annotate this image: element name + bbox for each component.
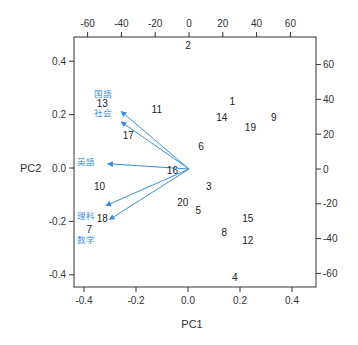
right-tick-label: -60 xyxy=(323,268,338,279)
y-tick-label: 0.2 xyxy=(52,109,66,120)
top-tick-label: 40 xyxy=(251,18,263,29)
right-axis: 6040200-20-40-60 xyxy=(316,59,338,279)
left-axis: 0.40.20.0-0.2-0.4 xyxy=(49,56,74,281)
right-tick-label: -40 xyxy=(323,233,338,244)
top-tick-label: 0 xyxy=(186,18,192,29)
top-tick-label: -60 xyxy=(80,18,95,29)
observation-label: 19 xyxy=(245,122,257,133)
observation-label: 9 xyxy=(271,112,277,123)
x-tick-label: 0.4 xyxy=(285,295,299,306)
x-tick-label: -0.4 xyxy=(75,295,93,306)
top-tick-label: -40 xyxy=(114,18,129,29)
top-tick-label: 60 xyxy=(285,18,297,29)
x-tick-label: -0.2 xyxy=(127,295,145,306)
x-tick-label: 0.2 xyxy=(233,295,247,306)
observation-label: 5 xyxy=(196,205,202,216)
observation-label: 20 xyxy=(177,197,189,208)
observation-label: 12 xyxy=(242,235,254,246)
loading-arrow xyxy=(121,122,189,169)
observation-label: 18 xyxy=(97,213,109,224)
observation-label: 11 xyxy=(152,104,163,115)
observation-label: 8 xyxy=(222,227,228,238)
plot-box xyxy=(74,37,316,287)
observation-label: 7 xyxy=(86,224,92,235)
variable-label: 理科 xyxy=(77,211,95,221)
right-tick-label: 20 xyxy=(323,129,335,140)
biplot-chart: -0.4-0.20.00.20.4 0.40.20.0-0.2-0.4 -60-… xyxy=(0,0,358,345)
right-tick-label: -20 xyxy=(323,198,338,209)
top-tick-label: 20 xyxy=(217,18,229,29)
y-axis-title: PC2 xyxy=(20,162,41,174)
observation-labels: 1234567891011121314151617181920 xyxy=(86,40,277,283)
observation-label: 6 xyxy=(198,141,204,152)
y-tick-label: -0.4 xyxy=(49,269,67,280)
observation-label: 15 xyxy=(242,213,254,224)
x-tick-label: 0.0 xyxy=(181,295,195,306)
observation-label: 17 xyxy=(123,130,135,141)
loading-arrow xyxy=(110,169,189,219)
observation-label: 2 xyxy=(185,40,191,51)
right-tick-label: 40 xyxy=(323,94,335,105)
observation-label: 3 xyxy=(206,181,212,192)
top-axis: -60-40-200204060 xyxy=(80,18,296,37)
variable-label: 数学 xyxy=(77,235,95,245)
right-tick-label: 60 xyxy=(323,59,335,70)
observation-label: 14 xyxy=(216,112,228,123)
observation-label: 10 xyxy=(94,181,106,192)
variable-label: 英語 xyxy=(77,157,95,167)
y-tick-label: 0.4 xyxy=(52,56,66,67)
observation-label: 4 xyxy=(232,272,238,283)
observation-label: 13 xyxy=(97,98,109,109)
observation-label: 16 xyxy=(167,165,179,176)
variable-label: 社会 xyxy=(94,108,112,118)
observation-label: 1 xyxy=(229,96,235,107)
bottom-axis: -0.4-0.20.00.20.4 xyxy=(75,287,299,306)
y-tick-label: 0.0 xyxy=(52,163,66,174)
y-tick-label: -0.2 xyxy=(49,216,67,227)
x-axis-title: PC1 xyxy=(181,318,202,330)
right-tick-label: 0 xyxy=(323,164,329,175)
top-tick-label: -20 xyxy=(148,18,163,29)
